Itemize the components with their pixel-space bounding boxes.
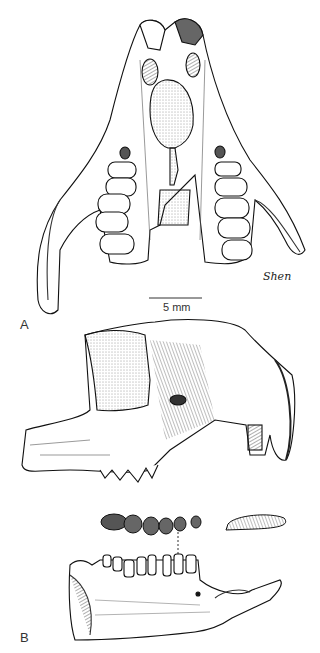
skull-lateral-drawing xyxy=(22,320,295,482)
scale-bar-label: 5 mm xyxy=(163,301,191,313)
panel-label-a: A xyxy=(20,317,29,332)
tooth-row-occlusal-drawing xyxy=(101,514,286,535)
fossil-illustration xyxy=(0,0,320,653)
artist-signature: Shen xyxy=(263,270,291,283)
mandible-drawing xyxy=(69,554,281,640)
panel-label-b: B xyxy=(20,630,29,645)
